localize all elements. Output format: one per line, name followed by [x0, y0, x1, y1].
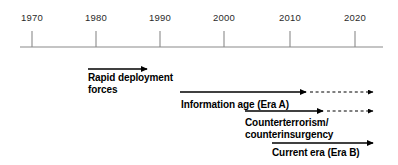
- year-label-1970: 1970: [21, 12, 43, 23]
- timeline-axis: [20, 31, 383, 47]
- era-label-current-era-era-b: Current era (Era B): [272, 147, 360, 159]
- year-label-2020: 2020: [344, 12, 366, 23]
- year-label-1980: 1980: [85, 12, 107, 23]
- timeline-diagram: 197019801990200020102020 Rapid deploymen…: [0, 0, 398, 165]
- era-label-counterterrorism-counterinsurgency: Counterterrorism/counterinsurgency: [245, 117, 333, 140]
- era-label-line: counterinsurgency: [245, 129, 333, 141]
- year-label-1990: 1990: [149, 12, 171, 23]
- era-label-line: forces: [88, 84, 173, 96]
- era-label-line: Information age (Era A): [181, 99, 289, 111]
- year-label-2000: 2000: [213, 12, 235, 23]
- era-label-information-age-era-a: Information age (Era A): [181, 99, 289, 111]
- era-label-rapid-deployment-forces: Rapid deploymentforces: [88, 72, 173, 95]
- era-label-line: Rapid deployment: [88, 72, 173, 84]
- era-label-line: Counterterrorism/: [245, 117, 333, 129]
- era-label-line: Current era (Era B): [272, 147, 360, 159]
- year-label-2010: 2010: [279, 12, 301, 23]
- timeline-graphics: [0, 0, 398, 165]
